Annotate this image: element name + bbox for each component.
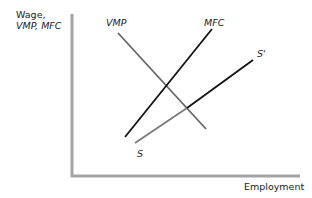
s-prime-label: S' xyxy=(257,48,266,59)
supply-curve-lower xyxy=(135,108,187,143)
y-axis-label-line2: VMP, MFC xyxy=(16,20,61,31)
mfc-label: MFC xyxy=(204,17,224,28)
vmp-label: VMP xyxy=(106,17,126,28)
y-axis-label-line1: Wage, xyxy=(16,9,61,20)
supply-curve-upper xyxy=(187,60,253,108)
x-axis-label: Employment xyxy=(244,181,304,192)
s-label: S xyxy=(137,148,143,159)
labor-market-diagram: Wage, VMP, MFC VMP MFC S' S Employment xyxy=(0,0,312,198)
vmp-curve xyxy=(118,33,206,129)
y-axis-label: Wage, VMP, MFC xyxy=(16,9,61,31)
